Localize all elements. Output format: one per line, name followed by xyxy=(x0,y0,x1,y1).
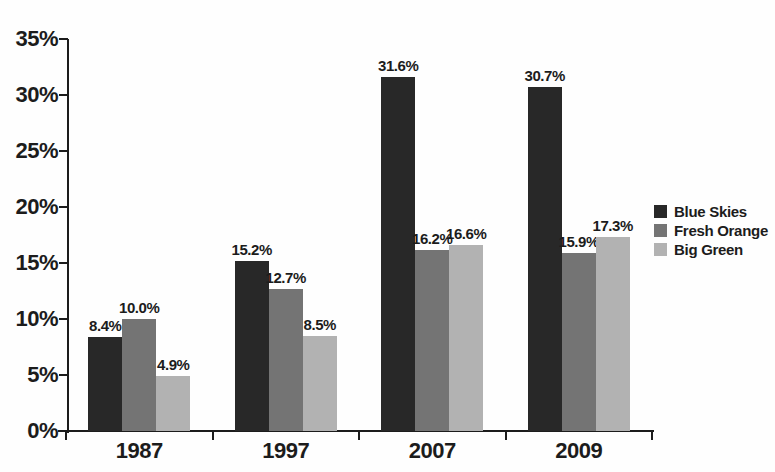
legend-label: Big Green xyxy=(674,243,743,256)
bar-big-green-2009 xyxy=(596,237,630,431)
y-axis-tick-label: 10% xyxy=(6,308,58,330)
bar-big-green-1987 xyxy=(156,376,190,431)
bar-fresh-orange-1997 xyxy=(269,289,303,431)
x-axis-category-label: 2007 xyxy=(382,440,482,462)
x-axis-tick xyxy=(651,432,653,440)
bar-blue-skies-2009 xyxy=(528,87,562,431)
legend-label: Blue Skies xyxy=(674,205,747,218)
bar-value-label: 30.7% xyxy=(505,68,585,84)
y-axis-tick-label: 25% xyxy=(6,140,58,162)
bar-value-label: 4.9% xyxy=(133,357,213,373)
bar-value-label: 12.7% xyxy=(246,270,326,286)
y-axis-tick xyxy=(59,150,68,152)
legend-item: Blue Skies xyxy=(654,205,768,218)
x-axis-tick xyxy=(212,432,214,440)
legend-swatch-icon xyxy=(654,205,667,218)
legend-swatch-icon xyxy=(654,224,667,237)
x-axis-tick xyxy=(65,432,67,440)
x-axis-tick xyxy=(358,432,360,440)
y-axis-tick-label: 35% xyxy=(6,28,58,50)
bar-fresh-orange-1987 xyxy=(122,319,156,431)
legend-label: Fresh Orange xyxy=(674,224,768,237)
legend: Blue Skies Fresh Orange Big Green xyxy=(654,205,768,262)
bar-big-green-1997 xyxy=(303,336,337,431)
y-axis-tick-label: 15% xyxy=(6,252,58,274)
bar-value-label: 8.5% xyxy=(280,317,360,333)
x-axis-category-label: 1997 xyxy=(236,440,336,462)
y-axis-tick xyxy=(59,262,68,264)
y-axis-tick-label: 30% xyxy=(6,84,58,106)
x-axis-category-label: 2009 xyxy=(529,440,629,462)
bar-fresh-orange-2009 xyxy=(562,253,596,431)
y-axis-tick-label: 5% xyxy=(6,364,58,386)
legend-item: Fresh Orange xyxy=(654,224,768,237)
bar-value-label: 31.6% xyxy=(358,58,438,74)
y-axis-tick xyxy=(59,374,68,376)
y-axis-tick xyxy=(59,206,68,208)
y-axis-tick xyxy=(59,38,68,40)
y-axis-tick xyxy=(59,94,68,96)
bar-fresh-orange-2007 xyxy=(415,250,449,431)
bar-value-label: 15.2% xyxy=(212,242,292,258)
bar-chart: 0%5%10%15%20%25%30%35%19878.4%10.0%4.9%1… xyxy=(0,0,775,472)
x-axis-category-label: 1987 xyxy=(89,440,189,462)
bar-value-label: 17.3% xyxy=(573,218,653,234)
legend-swatch-icon xyxy=(654,243,667,256)
bar-blue-skies-2007 xyxy=(381,77,415,431)
bar-value-label: 16.6% xyxy=(426,226,506,242)
y-axis-tick-label: 0% xyxy=(6,420,58,442)
legend-item: Big Green xyxy=(654,243,768,256)
x-axis-tick xyxy=(505,432,507,440)
y-axis-tick-label: 20% xyxy=(6,196,58,218)
bar-big-green-2007 xyxy=(449,245,483,431)
bar-blue-skies-1987 xyxy=(88,337,122,431)
bar-value-label: 10.0% xyxy=(99,300,179,316)
bar-blue-skies-1997 xyxy=(235,261,269,431)
